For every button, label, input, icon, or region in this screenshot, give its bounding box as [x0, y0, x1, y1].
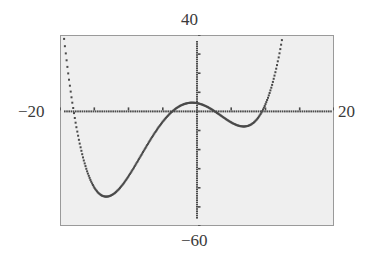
xmin-label: −20 [18, 103, 45, 120]
ymax-label: 40 [181, 11, 198, 28]
xmax-label: 20 [338, 103, 355, 120]
function-curve [63, 38, 283, 198]
ymin-label: −60 [181, 232, 208, 249]
function-graph [60, 35, 334, 226]
axes [60, 35, 334, 226]
